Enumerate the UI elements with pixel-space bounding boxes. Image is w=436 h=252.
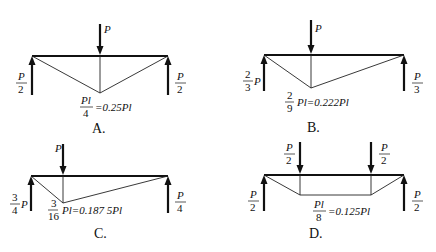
left-reaction-den-a: 2 [18,83,24,95]
moment-value-b: Pl=0.222Pl [296,96,349,108]
right-reaction-den-c: 4 [177,202,183,214]
load-arrowhead-d-right [368,165,375,174]
left-reaction-num-b: 2 [245,68,251,80]
left-reaction-den-c: 4 [12,204,18,216]
moment-num-c: 3 [51,197,57,209]
moment-num-a: Pl [80,94,91,106]
left-reaction-arrowhead-c [28,176,35,185]
right-reaction-den-b: 3 [414,83,420,95]
load-label-a: P [103,23,111,35]
right-reaction-num-c: P [176,189,184,201]
moment-den-c: 16 [48,210,60,222]
moment-den-d: 8 [316,211,322,223]
panel-d: P 2 P 2 P 2 P 2 Pl 8 =0.125Pl D. [248,141,423,241]
load-arrowhead-d-left [297,165,304,174]
moment-value-a: =0.25Pl [95,101,131,113]
moment-den-b: 9 [287,102,293,114]
load-right-den-d: 2 [381,154,387,166]
right-reaction-arrowhead-c [165,176,172,185]
right-reaction-den-d: 2 [414,201,420,213]
moment-diagram-d [264,175,404,195]
load-arrowhead-b [308,45,315,54]
right-reaction-num-b: P [413,70,421,82]
moment-diagram-b [264,55,404,88]
left-reaction-suffix-c: P [20,198,28,210]
load-right-num-d: P [380,141,388,153]
left-reaction-num-c: 3 [12,191,18,203]
moment-den-a: 4 [83,107,89,119]
load-label-c: P [54,142,62,154]
right-reaction-arrowhead-b [401,55,408,64]
right-reaction-num-a: P [176,70,184,82]
caption-d: D. [309,226,323,241]
caption-c: C. [94,226,107,241]
left-reaction-num-d: P [249,188,257,200]
right-reaction-den-a: 2 [177,83,183,95]
moment-num-b: 2 [287,89,293,101]
right-reaction-num-d: P [413,188,421,200]
load-arrowhead-c [60,166,67,175]
caption-b: B. [307,120,320,135]
load-left-num-d: P [285,141,293,153]
load-arrowhead-a [97,46,104,55]
panel-a: P P 2 P 2 Pl 4 =0.25Pl A. [16,23,186,136]
left-reaction-den-d: 2 [250,201,256,213]
left-reaction-den-b: 3 [245,81,251,93]
moment-value-c: Pl=0.187 5Pl [61,204,122,216]
caption-a: A. [92,121,106,136]
left-reaction-num-a: P [17,70,25,82]
moment-num-d: Pl [313,198,324,210]
load-left-den-d: 2 [286,154,292,166]
moment-value-d: =0.125Pl [328,205,370,217]
panel-b: P 2 3 P P 3 2 9 Pl=0.222Pl B. [243,20,423,135]
left-reaction-suffix-b: P [253,75,261,87]
load-label-b: P [314,22,322,34]
bending-moment-diagrams: P P 2 P 2 Pl 4 =0.25Pl A. P 2 3 P [0,0,436,252]
panel-c: P 3 4 P P 4 3 16 Pl=0.187 5Pl C. [10,142,186,241]
